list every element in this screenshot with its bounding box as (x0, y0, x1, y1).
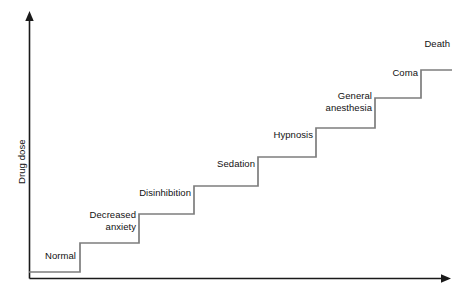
y-axis-arrowhead (25, 11, 33, 21)
step-label-decreased-anxiety: Decreased anxiety (64, 209, 136, 232)
staircase-group (29, 70, 452, 272)
step-label-normal: Normal (29, 250, 76, 262)
step-label-general-anesthesia: General anesthesia (300, 90, 372, 113)
step-label-sedation: Sedation (196, 158, 255, 170)
chart-canvas (0, 0, 455, 288)
staircase-step-line (29, 70, 452, 272)
step-label-hypnosis: Hypnosis (256, 129, 313, 141)
drug-dose-step-chart: Drug dose Normal Decreased anxiety Disin… (0, 0, 455, 288)
y-axis-label: Drug dose (16, 64, 27, 184)
x-axis-arrowhead (441, 274, 451, 282)
axes-group (25, 11, 451, 283)
step-label-disinhibition: Disinhibition (121, 187, 191, 199)
step-label-coma: Coma (376, 67, 418, 79)
step-label-death: Death (408, 38, 450, 50)
